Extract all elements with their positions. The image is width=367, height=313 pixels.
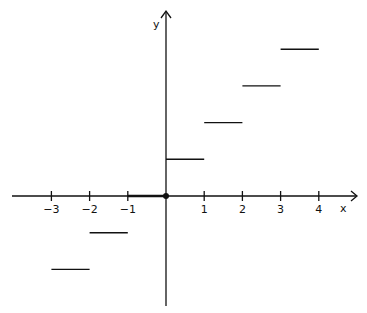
x-tick-label: −1	[120, 203, 136, 216]
x-tick-label: −3	[43, 203, 59, 216]
origin-point	[163, 193, 169, 199]
step-function-chart: −3−2−11234 x y	[0, 0, 367, 313]
x-axis-label: x	[340, 202, 347, 215]
x-tick-label: −2	[81, 203, 97, 216]
x-tick-label: 1	[201, 203, 208, 216]
x-tick-label: 3	[277, 203, 284, 216]
x-tick-label: 4	[315, 203, 322, 216]
y-axis-label: y	[153, 18, 160, 31]
x-tick-label: 2	[239, 203, 246, 216]
